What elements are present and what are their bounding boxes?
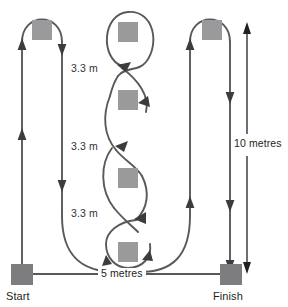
finish-label: Finish xyxy=(213,291,243,302)
slalom-course-diagram: 3.3 m 3.3 m 3.3 m 10 metres 5 metres Sta… xyxy=(0,0,288,307)
start-marker xyxy=(11,264,33,285)
right-arrowheads xyxy=(186,38,235,272)
arrow-down-right-lower xyxy=(226,200,235,212)
arrow-slalom-5 xyxy=(102,255,112,266)
cone-gap-label-3: 3.3 m xyxy=(71,208,98,219)
horizontal-dimension-label: 5 metres xyxy=(98,268,146,279)
course-svg xyxy=(0,0,288,307)
vertical-dimension-label: 10 metres xyxy=(234,138,282,149)
right-from-slalom-curve xyxy=(140,216,190,272)
weave-lens-3-left xyxy=(103,148,114,208)
arrow-up-left-lower xyxy=(18,38,27,50)
arrow-down-left-lower xyxy=(58,180,67,192)
right-leg-path xyxy=(140,20,230,273)
arrow-slalom-6 xyxy=(142,250,153,261)
weave-lens-2-left xyxy=(105,96,116,150)
cone-markers xyxy=(32,20,222,262)
slalom-weave-path xyxy=(103,12,153,268)
cone-center-3 xyxy=(118,168,138,188)
weave-cross-1 xyxy=(110,76,118,96)
cone-center-2 xyxy=(118,90,138,110)
arrow-up-right-lower xyxy=(186,196,195,208)
arrow-up-right-upper xyxy=(186,38,195,50)
arrow-down-right-upper xyxy=(226,92,235,104)
cone-right-top xyxy=(202,20,222,40)
arrow-down-left-upper xyxy=(58,44,67,56)
left-leg-path xyxy=(22,20,116,273)
cone-left-top xyxy=(32,20,52,40)
dim-arrow-up xyxy=(243,22,251,34)
start-label: Start xyxy=(6,291,30,302)
arrow-up-left-mid xyxy=(18,128,27,140)
cone-center-4 xyxy=(118,242,138,262)
finish-marker xyxy=(220,264,242,285)
cone-gap-label-2: 3.3 m xyxy=(71,141,98,152)
arrow-slalom-2 xyxy=(138,96,150,107)
cone-center-1 xyxy=(118,22,138,42)
weave-loop-top xyxy=(107,12,153,76)
cone-gap-label-1: 3.3 m xyxy=(71,63,98,74)
dim-arrow-down xyxy=(243,262,251,274)
